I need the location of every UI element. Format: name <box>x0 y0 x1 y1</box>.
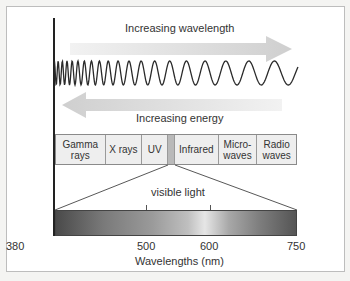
tick-label-750: 750 <box>287 240 305 252</box>
visible-light-label: visible light <box>151 186 205 198</box>
expansion-lines <box>0 0 350 281</box>
tick-label-500: 500 <box>137 240 155 252</box>
tick-label-600: 600 <box>200 240 218 252</box>
visible-gradient-bar <box>55 210 297 236</box>
tick-label-380: 380 <box>6 240 24 252</box>
axis-title: Wavelengths (nm) <box>135 255 224 267</box>
